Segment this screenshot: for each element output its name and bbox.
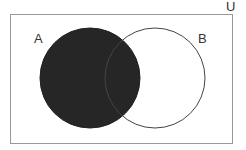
universe-label: U [226, 0, 235, 14]
set-a-circle [40, 28, 140, 128]
set-b-label: B [198, 31, 207, 46]
set-a-label: A [34, 31, 43, 46]
venn-diagram: U A B [0, 0, 246, 150]
